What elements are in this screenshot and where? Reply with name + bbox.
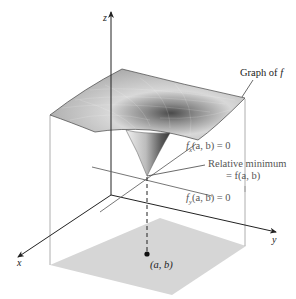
- fy-label: fy(a, b) = 0: [186, 193, 231, 206]
- fx-label: fx(a, b) = 0: [186, 141, 231, 154]
- graph-leader: [242, 80, 253, 97]
- domain-region: [50, 218, 246, 295]
- surface-sheet: [50, 69, 245, 140]
- relative-minimum-value-label: = f(a, b): [226, 171, 260, 182]
- point-a-b: [144, 251, 149, 256]
- graph-of-f-label: Graph of f: [240, 68, 283, 79]
- relative-minimum-label: Relative minimum: [208, 159, 286, 170]
- x-axis-label: x: [17, 258, 21, 268]
- relative-minimum-diagram: [0, 0, 296, 299]
- funnel-cone: [126, 130, 170, 176]
- z-axis-label: z: [103, 13, 107, 23]
- y-axis-label: y: [272, 235, 276, 245]
- point-a-b-label: (a, b): [150, 260, 173, 271]
- relmin-leader: [147, 165, 205, 176]
